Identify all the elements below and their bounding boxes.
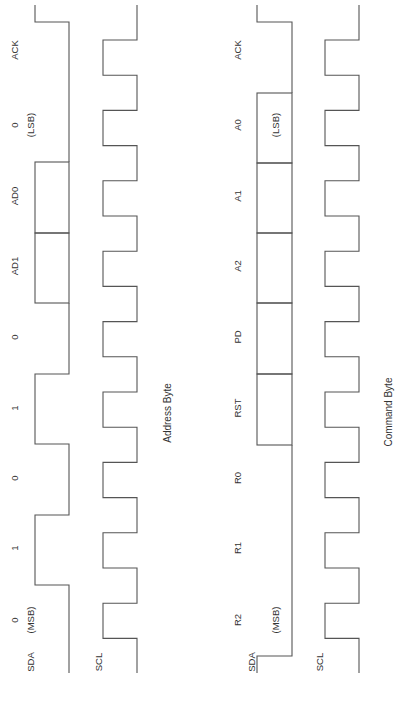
bit-label: 1: [9, 545, 20, 550]
bit-label: AD1: [9, 257, 20, 275]
sda-signal-label: SDA: [246, 652, 257, 672]
sda-bit-box: [257, 163, 292, 233]
bit-label: PD: [232, 330, 243, 343]
lsb-label: (LSB): [270, 113, 281, 137]
bit-label: R2: [232, 614, 243, 626]
sda-bit-box: [257, 233, 292, 303]
sda-bit-box: [35, 162, 69, 233]
diagram-title: Command Byte: [383, 377, 394, 446]
sda-waveform: [35, 5, 69, 673]
sda-bit-box: [257, 374, 292, 445]
bit-label: A0: [232, 119, 243, 131]
bit-label: R1: [232, 542, 243, 554]
bit-label: ACK: [232, 40, 243, 60]
scl-waveform: [325, 5, 359, 673]
bit-label: 0: [9, 617, 20, 622]
bit-label: AD0: [9, 187, 20, 205]
scl-signal-label: SCL: [314, 653, 325, 671]
lsb-label: (LSB): [25, 113, 36, 137]
bit-label: ACK: [9, 40, 20, 60]
bit-label: R0: [232, 472, 243, 484]
sda-waveform: [257, 5, 292, 673]
bit-label: 0: [9, 475, 20, 480]
bit-label: 1: [9, 405, 20, 410]
command-byte-timing: R2(MSB)R1R0RSTPDA2A1A0(LSB)ACKSDASCLComm…: [232, 5, 394, 673]
bit-label: A2: [232, 260, 243, 272]
address-byte-timing: 0(MSB)1010AD1AD00(LSB)ACKSDASCLAddress B…: [9, 5, 173, 673]
bit-label: RST: [232, 398, 243, 417]
msb-label: (MSB): [270, 607, 281, 634]
diagram-title: Address Byte: [162, 383, 173, 443]
bit-label: A1: [232, 190, 243, 202]
bit-label: 0: [9, 122, 20, 127]
sda-bit-box: [35, 233, 69, 303]
sda-bit-box: [257, 303, 292, 374]
bit-label: 0: [9, 334, 20, 339]
sda-signal-label: SDA: [25, 652, 36, 672]
scl-signal-label: SCL: [93, 653, 104, 671]
msb-label: (MSB): [25, 607, 36, 634]
scl-waveform: [103, 5, 137, 673]
i2c-timing-diagram: 0(MSB)1010AD1AD00(LSB)ACKSDASCLAddress B…: [0, 0, 400, 707]
